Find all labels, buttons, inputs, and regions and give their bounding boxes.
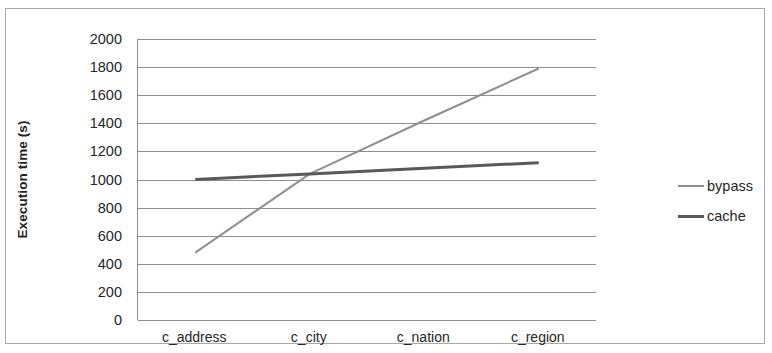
series-line-bypass	[195, 69, 539, 253]
y-axis-tick-label: 1800	[90, 59, 122, 75]
plot-area	[137, 39, 596, 320]
x-axis-tick-label: c_address	[162, 329, 227, 345]
series-line-cache	[195, 163, 539, 180]
y-axis-title: Execution time (s)	[12, 69, 32, 289]
y-axis-tick-labels: 2000180016001400120010008006004002000	[34, 31, 130, 328]
chart-legend: bypasscache	[678, 171, 770, 231]
series-svg	[138, 39, 596, 320]
legend-swatch-cache	[678, 215, 704, 218]
legend-label-bypass: bypass	[707, 178, 753, 194]
y-axis-tick-label: 0	[114, 312, 122, 328]
y-axis-tick-label: 800	[98, 200, 122, 216]
chart-figure: Execution time (s) 200018001600140012001…	[5, 8, 765, 344]
legend-entry-cache[interactable]: cache	[678, 201, 770, 231]
series-layer	[138, 39, 596, 320]
x-axis-tick-label: c_city	[291, 329, 327, 345]
legend-swatch-bypass	[678, 185, 704, 187]
x-axis-tick-label: c_region	[511, 329, 565, 345]
y-axis-tick-label: 200	[98, 284, 122, 300]
y-axis-tick-label: 1600	[90, 87, 122, 103]
y-axis-title-label: Execution time (s)	[15, 120, 30, 238]
y-axis-tick-label: 1400	[90, 115, 122, 131]
y-axis-tick-label: 1200	[90, 143, 122, 159]
legend-entry-bypass[interactable]: bypass	[678, 171, 770, 201]
legend-label-cache: cache	[707, 208, 746, 224]
x-axis-tick-labels: c_addressc_cityc_nationc_region	[137, 325, 596, 353]
y-axis-tick-label: 400	[98, 256, 122, 272]
y-axis-tick-label: 600	[98, 228, 122, 244]
x-axis-tick-label: c_nation	[397, 329, 450, 345]
gridline	[138, 320, 596, 321]
y-axis-tick-label: 1000	[90, 172, 122, 188]
y-axis-tick-label: 2000	[90, 31, 122, 47]
